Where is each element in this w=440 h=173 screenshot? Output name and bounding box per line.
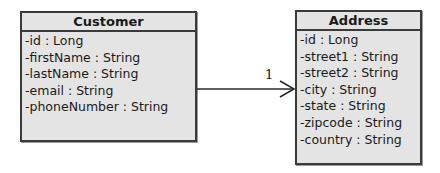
class-name: Address xyxy=(297,12,420,31)
attribute-id: -id : Long xyxy=(25,33,192,50)
class-name: Customer xyxy=(22,13,195,32)
attribute-city: -city : String xyxy=(300,82,417,99)
attribute-street1: -street1 : String xyxy=(300,49,417,66)
class-address[interactable]: Address -id : Long -street1 : String -st… xyxy=(295,10,422,165)
attribute-firstname: -firstName : String xyxy=(25,50,192,67)
attribute-state: -state : String xyxy=(300,98,417,115)
attribute-street2: -street2 : String xyxy=(300,65,417,82)
attribute-list: -id : Long -firstName : String -lastName… xyxy=(22,32,195,119)
attribute-email: -email : String xyxy=(25,83,192,100)
class-customer[interactable]: Customer -id : Long -firstName : String … xyxy=(20,11,197,142)
attribute-id: -id : Long xyxy=(300,32,417,49)
multiplicity-label: 1 xyxy=(265,67,273,82)
attribute-country: -country : String xyxy=(300,132,417,149)
attribute-list: -id : Long -street1 : String -street2 : … xyxy=(297,31,420,151)
attribute-zipcode: -zipcode : String xyxy=(300,115,417,132)
attribute-lastname: -lastName : String xyxy=(25,66,192,83)
arrow-head-icon xyxy=(280,81,294,97)
attribute-phonenumber: -phoneNumber : String xyxy=(25,99,192,116)
